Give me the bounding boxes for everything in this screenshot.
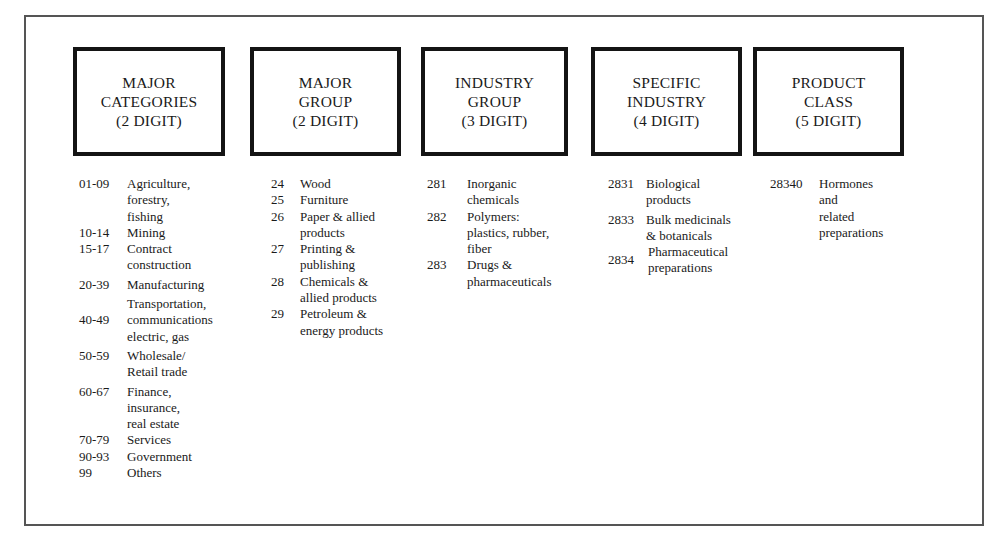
list-item: 283Drugs & pharmaceuticals bbox=[427, 257, 551, 290]
major-group-list: 24Wood 25Furniture 26Paper & allied prod… bbox=[271, 176, 383, 339]
item-code: 01-09 bbox=[79, 176, 127, 225]
list-item: 20-39Manufacturing bbox=[79, 277, 213, 293]
list-item: 99Others bbox=[79, 465, 213, 481]
item-code: 10-14 bbox=[79, 225, 127, 241]
list-item: 70-79Services bbox=[79, 432, 213, 448]
item-code: 2833 bbox=[608, 212, 646, 245]
item-code: 15-17 bbox=[79, 241, 127, 274]
header-line: (2 DIGIT) bbox=[101, 111, 198, 130]
item-desc: Bulk medicinals & botanicals bbox=[646, 212, 731, 245]
header-line: CATEGORIES bbox=[101, 92, 198, 111]
item-desc: Polymers: plastics, rubber, fiber bbox=[467, 209, 549, 258]
list-item: 281Inorganic chemicals bbox=[427, 176, 551, 209]
item-desc: Chemicals & allied products bbox=[300, 274, 377, 307]
list-item: 40-49Transportation, communications elec… bbox=[79, 296, 213, 345]
major-categories-list: 01-09Agriculture, forestry, fishing 10-1… bbox=[79, 176, 213, 481]
header-box-industry-group: INDUSTRY GROUP (3 DIGIT) bbox=[421, 47, 568, 156]
header-box-major-categories: MAJOR CATEGORIES (2 DIGIT) bbox=[73, 47, 225, 156]
list-item: 2831Biological products bbox=[608, 176, 731, 209]
list-item: 01-09Agriculture, forestry, fishing bbox=[79, 176, 213, 225]
list-item: 24Wood bbox=[271, 176, 383, 192]
item-desc: Hormones and related preparations bbox=[819, 176, 883, 241]
header-line: INDUSTRY bbox=[627, 92, 706, 111]
item-desc: Government bbox=[127, 449, 192, 465]
item-code: 50-59 bbox=[79, 348, 127, 381]
list-item: 25Furniture bbox=[271, 192, 383, 208]
header-line: CLASS bbox=[792, 92, 866, 111]
list-item: 26Paper & allied products bbox=[271, 209, 383, 242]
item-desc: Finance, insurance, real estate bbox=[127, 384, 180, 433]
list-item: 29Petroleum & energy products bbox=[271, 306, 383, 339]
item-code: 2834 bbox=[608, 252, 648, 268]
header-line: (3 DIGIT) bbox=[455, 111, 534, 130]
item-desc: Printing & publishing bbox=[300, 241, 355, 274]
item-code: 27 bbox=[271, 241, 300, 274]
header-box-specific-industry: SPECIFIC INDUSTRY (4 DIGIT) bbox=[591, 47, 742, 156]
list-item: 2834Pharmaceutical preparations bbox=[608, 244, 731, 277]
item-code: 40-49 bbox=[79, 312, 127, 328]
header-line: MAJOR bbox=[101, 73, 198, 92]
header-line: (4 DIGIT) bbox=[627, 111, 706, 130]
item-desc: Mining bbox=[127, 225, 165, 241]
item-desc: Furniture bbox=[300, 192, 348, 208]
header-line: INDUSTRY bbox=[455, 73, 534, 92]
item-desc: Wholesale/ Retail trade bbox=[127, 348, 187, 381]
item-desc: Pharmaceutical preparations bbox=[648, 244, 728, 277]
item-code: 282 bbox=[427, 209, 467, 258]
header-line: MAJOR bbox=[293, 73, 359, 92]
header-line: PRODUCT bbox=[792, 73, 866, 92]
header-line: (5 DIGIT) bbox=[792, 111, 866, 130]
item-desc: Paper & allied products bbox=[300, 209, 375, 242]
item-desc: Inorganic chemicals bbox=[467, 176, 519, 209]
item-desc: Contract construction bbox=[127, 241, 191, 274]
specific-industry-list: 2831Biological products 2833Bulk medicin… bbox=[608, 176, 731, 277]
item-desc: Agriculture, forestry, fishing bbox=[127, 176, 190, 225]
item-desc: Biological products bbox=[646, 176, 700, 209]
list-item: 282Polymers: plastics, rubber, fiber bbox=[427, 209, 551, 258]
item-code: 281 bbox=[427, 176, 467, 209]
item-code: 283 bbox=[427, 257, 467, 290]
header-box-product-class: PRODUCT CLASS (5 DIGIT) bbox=[753, 47, 904, 156]
header-line: GROUP bbox=[455, 92, 534, 111]
item-code: 99 bbox=[79, 465, 127, 481]
item-desc: Transportation, communications electric,… bbox=[127, 296, 213, 345]
list-item: 90-93Government bbox=[79, 449, 213, 465]
header-line: SPECIFIC bbox=[627, 73, 706, 92]
industry-group-list: 281Inorganic chemicals 282Polymers: plas… bbox=[427, 176, 551, 290]
header-box-major-group: MAJOR GROUP (2 DIGIT) bbox=[250, 47, 401, 156]
item-code: 70-79 bbox=[79, 432, 127, 448]
list-item: 15-17Contract construction bbox=[79, 241, 213, 274]
item-desc: Manufacturing bbox=[127, 277, 204, 293]
list-item: 50-59Wholesale/ Retail trade bbox=[79, 348, 213, 381]
item-desc: Petroleum & energy products bbox=[300, 306, 383, 339]
item-desc: Others bbox=[127, 465, 162, 481]
item-code: 26 bbox=[271, 209, 300, 242]
item-desc: Services bbox=[127, 432, 171, 448]
item-desc: Drugs & pharmaceuticals bbox=[467, 257, 551, 290]
list-item: 28340Hormones and related preparations bbox=[770, 176, 883, 241]
item-code: 25 bbox=[271, 192, 300, 208]
header-line: GROUP bbox=[293, 92, 359, 111]
item-code: 20-39 bbox=[79, 277, 127, 293]
header-line: (2 DIGIT) bbox=[293, 111, 359, 130]
item-code: 24 bbox=[271, 176, 300, 192]
item-desc: Wood bbox=[300, 176, 331, 192]
list-item: 60-67Finance, insurance, real estate bbox=[79, 384, 213, 433]
item-code: 90-93 bbox=[79, 449, 127, 465]
product-class-list: 28340Hormones and related preparations bbox=[770, 176, 883, 241]
list-item: 2833Bulk medicinals & botanicals bbox=[608, 212, 731, 245]
item-code: 2831 bbox=[608, 176, 646, 209]
list-item: 27Printing & publishing bbox=[271, 241, 383, 274]
list-item: 28Chemicals & allied products bbox=[271, 274, 383, 307]
item-code: 28 bbox=[271, 274, 300, 307]
item-code: 60-67 bbox=[79, 384, 127, 433]
item-code: 28340 bbox=[770, 176, 819, 241]
list-item: 10-14Mining bbox=[79, 225, 213, 241]
item-code: 29 bbox=[271, 306, 300, 339]
